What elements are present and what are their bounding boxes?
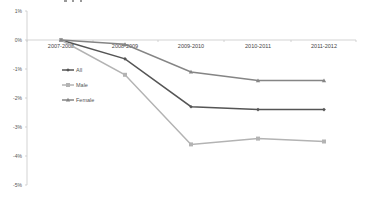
legend-label: All [76, 67, 82, 73]
y-tick-label: -4% [13, 153, 22, 159]
y-tick-label: -5% [13, 182, 22, 188]
series-male [59, 38, 326, 146]
legend-item-male: Male [62, 82, 88, 88]
category-label: 2011-2012 [311, 43, 337, 49]
legend-item-female: Female [62, 97, 94, 103]
clipped-title-fragment [64, 0, 82, 2]
y-tick-label: 1% [15, 8, 23, 14]
category-label: 2010-2011 [245, 43, 271, 49]
line-chart: 1%0%-1%-2%-3%-4%-5% 2007-20082008-200920… [0, 0, 365, 200]
legend: AllMaleFemale [62, 67, 94, 103]
y-tick-label: -2% [13, 95, 22, 101]
category-labels: 2007-20082008-20092009-20102010-20112011… [48, 43, 337, 49]
legend-item-all: All [62, 67, 82, 73]
y-tick-label: -3% [13, 124, 22, 130]
y-axis-ticks: 1%0%-1%-2%-3%-4%-5% [13, 8, 27, 188]
legend-label: Male [76, 82, 88, 88]
legend-label: Female [76, 97, 94, 103]
category-label: 2007-2008 [48, 43, 74, 49]
category-label: 2009-2010 [178, 43, 204, 49]
y-tick-label: 0% [15, 37, 23, 43]
y-tick-label: -1% [13, 66, 22, 72]
series-all [59, 38, 326, 111]
series-lines [59, 38, 326, 147]
